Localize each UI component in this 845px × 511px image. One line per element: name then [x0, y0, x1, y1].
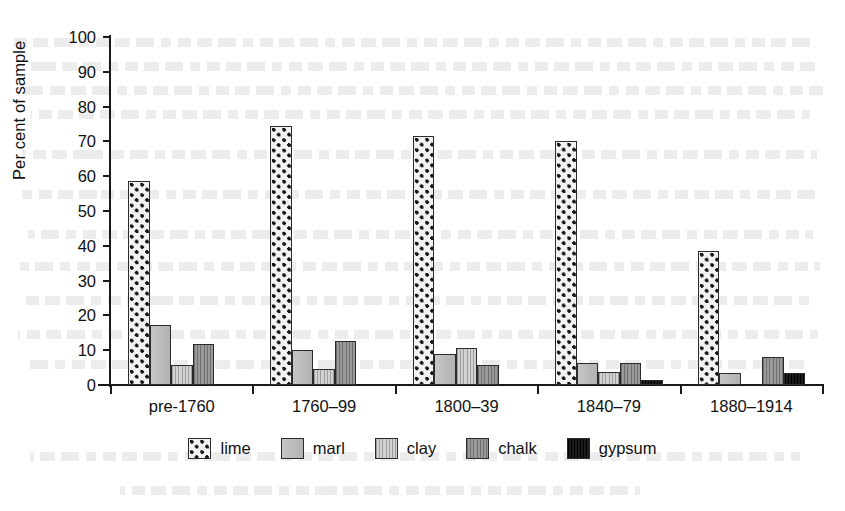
x-tick-mark	[680, 385, 682, 394]
bar-clay-1	[313, 369, 335, 385]
y-tick-label: 60	[50, 167, 96, 186]
bar-marl-1	[292, 350, 314, 385]
bar-marl-3	[577, 363, 599, 385]
legend-label: lime	[220, 439, 250, 458]
x-tick-mark	[110, 385, 112, 394]
bar-lime-0	[128, 181, 150, 385]
y-tick-label: 30	[50, 271, 96, 290]
y-tick-label: 50	[50, 202, 96, 221]
legend-swatch-clay	[375, 438, 398, 459]
bar-lime-1	[270, 126, 292, 385]
legend-label: marl	[313, 439, 345, 458]
bar-chalk-3	[620, 363, 642, 385]
bar-clay-2	[456, 348, 478, 385]
legend-swatch-lime	[188, 438, 211, 459]
bar-lime-3	[555, 141, 577, 385]
y-tick-label: 0	[50, 376, 96, 395]
legend-swatch-gypsum	[567, 438, 590, 459]
y-tick-label: 90	[50, 62, 96, 81]
x-group-label: 1760–99	[292, 397, 356, 416]
legend-swatch-marl	[281, 438, 304, 459]
y-tick-label: 40	[50, 236, 96, 255]
bar-chalk-4	[762, 357, 784, 385]
y-tick-label: 20	[50, 306, 96, 325]
bar-gypsum-4	[784, 373, 806, 385]
x-tick-mark	[537, 385, 539, 394]
legend-item-chalk: chalk	[466, 438, 537, 459]
x-tick-mark	[822, 385, 824, 394]
bar-marl-0	[150, 325, 172, 385]
legend-label: chalk	[498, 439, 537, 458]
bar-marl-2	[434, 354, 456, 385]
bar-chart: Per cent of sample 010203040506070809010…	[0, 0, 845, 511]
legend-item-lime: lime	[188, 438, 250, 459]
legend-label: gypsum	[599, 439, 657, 458]
plot-area	[110, 37, 822, 385]
bar-lime-2	[413, 136, 435, 385]
x-group-label: 1800–39	[434, 397, 498, 416]
y-tick-label: 100	[50, 28, 96, 47]
y-tick-label: 80	[50, 97, 96, 116]
x-group-label: 1880–1914	[710, 397, 793, 416]
bar-clay-0	[171, 365, 193, 385]
legend-item-clay: clay	[375, 438, 436, 459]
chart-legend: limemarlclaychalkgypsum	[0, 438, 845, 459]
x-group-label: 1840–79	[577, 397, 641, 416]
x-group-label: pre-1760	[149, 397, 215, 416]
legend-item-marl: marl	[281, 438, 345, 459]
bar-lime-4	[698, 251, 720, 385]
bar-marl-4	[719, 373, 741, 385]
bar-chalk-0	[193, 344, 215, 385]
y-tick-label: 10	[50, 341, 96, 360]
legend-label: clay	[407, 439, 436, 458]
bar-chalk-2	[477, 365, 499, 385]
bar-gypsum-3	[641, 380, 663, 385]
legend-item-gypsum: gypsum	[567, 438, 657, 459]
legend-swatch-chalk	[466, 438, 489, 459]
x-tick-mark	[252, 385, 254, 394]
bar-chalk-1	[335, 341, 357, 385]
bar-clay-3	[598, 372, 620, 385]
y-axis-title: Per cent of sample	[10, 0, 29, 180]
y-tick-label: 70	[50, 132, 96, 151]
x-tick-mark	[395, 385, 397, 394]
